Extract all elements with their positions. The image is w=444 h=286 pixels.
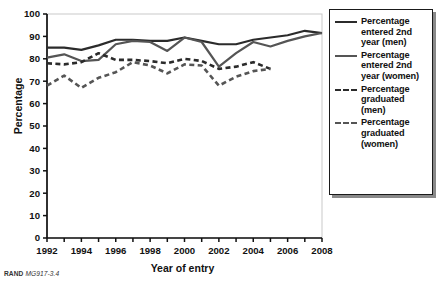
- chart-legend: Percentage entered 2nd year (men) Percen…: [329, 9, 433, 195]
- y-tick-label: 40: [29, 143, 40, 154]
- legend-label-entered-women: Percentage entered 2nd year (women): [361, 50, 428, 82]
- legend-item-graduated-women: Percentage graduated (women): [335, 117, 428, 149]
- series-line-2: [47, 53, 270, 69]
- y-tick-label: 20: [29, 188, 40, 199]
- legend-swatch-dashed-men: [335, 84, 357, 97]
- y-tick-label: 0: [35, 232, 40, 243]
- legend-item-graduated-men: Percentage graduated (men): [335, 84, 428, 116]
- y-tick-label: 30: [29, 165, 40, 176]
- x-tick-label: 1998: [139, 245, 161, 256]
- x-tick-label: 2000: [174, 245, 195, 256]
- legend-swatch-solid-men: [335, 16, 357, 29]
- x-tick-label: 2008: [311, 245, 333, 256]
- y-tick-label: 100: [24, 8, 40, 19]
- credit-publisher: RAND: [4, 270, 23, 277]
- legend-item-entered-women: Percentage entered 2nd year (women): [335, 50, 428, 82]
- y-tick-label: 50: [29, 120, 40, 131]
- x-tick-label: 2002: [208, 245, 229, 256]
- legend-swatch-dashed-women: [335, 117, 357, 130]
- x-tick-label: 2006: [277, 245, 298, 256]
- figure-container: 0102030405060708090100199219941996199820…: [0, 0, 444, 286]
- y-tick-label: 90: [29, 31, 40, 42]
- x-tick-label: 1996: [105, 245, 126, 256]
- x-tick-label: 1994: [71, 245, 93, 256]
- legend-item-entered-men: Percentage entered 2nd year (men): [335, 16, 428, 48]
- y-tick-label: 10: [29, 210, 40, 221]
- series-line-0: [47, 31, 322, 50]
- y-axis-title: Percentage: [12, 51, 24, 161]
- legend-label-graduated-women: Percentage graduated (women): [361, 117, 428, 149]
- y-tick-label: 60: [29, 98, 40, 109]
- x-axis-title: Year of entry: [45, 262, 320, 274]
- y-tick-label: 80: [29, 53, 40, 64]
- y-tick-label: 70: [29, 76, 40, 87]
- x-tick-label: 1992: [36, 245, 57, 256]
- credit-identifier: MG917-3.4: [25, 270, 59, 277]
- legend-label-entered-men: Percentage entered 2nd year (men): [361, 16, 428, 48]
- series-line-1: [47, 33, 322, 67]
- legend-label-graduated-men: Percentage graduated (men): [361, 84, 428, 116]
- x-tick-label: 2004: [243, 245, 265, 256]
- figure-credit: RAND MG917-3.4: [4, 270, 59, 277]
- legend-swatch-solid-women: [335, 50, 357, 63]
